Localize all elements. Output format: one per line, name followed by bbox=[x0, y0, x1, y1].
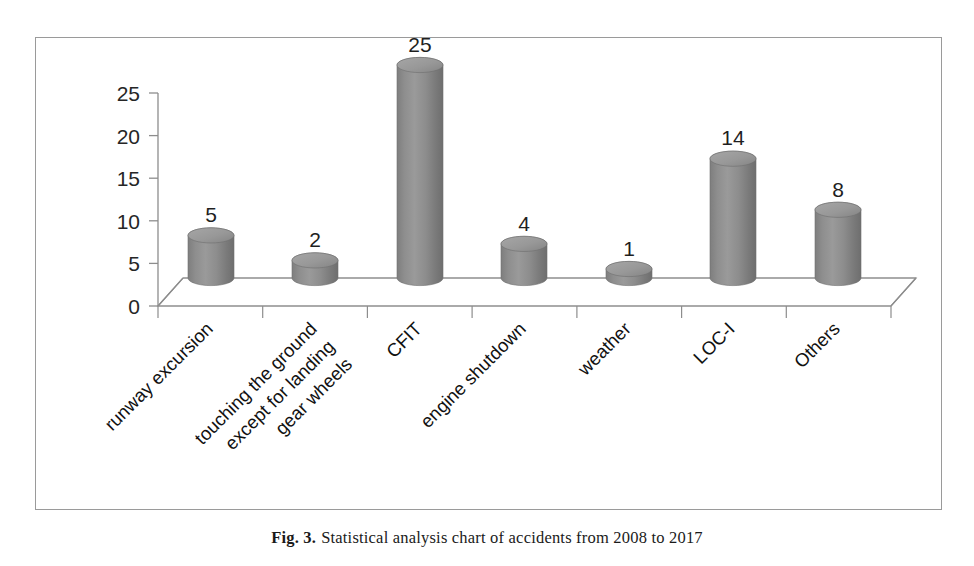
figure-number: Fig. 3. bbox=[271, 528, 316, 547]
bar-weather[interactable]: 1 bbox=[606, 237, 652, 286]
bar-value-label-cfit: 25 bbox=[408, 38, 431, 56]
y-tick-label-5: 5 bbox=[128, 252, 140, 275]
y-tick-label-25: 25 bbox=[117, 82, 140, 105]
x-category-label-touching-the-ground: touching the ground except for landing g… bbox=[190, 318, 356, 484]
x-category-label-cfit: CFIT bbox=[382, 318, 426, 362]
bar-value-label-touching-the-ground: 2 bbox=[309, 228, 321, 251]
figure-root: 25 20 15 10 5 0 bbox=[0, 0, 974, 566]
bar-value-label-engine-shutdown: 4 bbox=[518, 212, 530, 235]
y-tick-label-20: 20 bbox=[117, 125, 140, 148]
x-category-label-weather: weather bbox=[573, 318, 635, 380]
svg-text:runway excursion: runway excursion bbox=[100, 318, 217, 435]
svg-text:weather: weather bbox=[573, 318, 635, 380]
bar-cfit[interactable]: 25 bbox=[397, 38, 443, 286]
figure-caption-text: Statistical analysis chart of accidents … bbox=[321, 528, 703, 547]
y-tick-labels: 25 20 15 10 5 0 bbox=[117, 82, 140, 318]
svg-text:engine shutdown: engine shutdown bbox=[416, 318, 530, 432]
svg-text:Others: Others bbox=[790, 318, 844, 372]
figure-caption: Fig. 3.Statistical analysis chart of acc… bbox=[0, 528, 974, 548]
svg-text:LOC-I: LOC-I bbox=[689, 318, 739, 368]
bar-engine-shutdown[interactable]: 4 bbox=[501, 212, 547, 286]
x-category-label-engine-shutdown: engine shutdown bbox=[416, 318, 530, 432]
y-axis bbox=[149, 93, 158, 306]
bar-value-label-weather: 1 bbox=[623, 237, 635, 260]
y-tick-label-15: 15 bbox=[117, 167, 140, 190]
bar-touching-the-ground[interactable]: 2 bbox=[292, 228, 338, 286]
bar-others[interactable]: 8 bbox=[815, 178, 861, 286]
x-category-label-loc-i: LOC-I bbox=[689, 318, 739, 368]
bar-value-label-others: 8 bbox=[832, 178, 844, 201]
x-category-label-runway-excursion: runway excursion bbox=[100, 318, 217, 435]
bar-chart-svg: 25 20 15 10 5 0 bbox=[36, 38, 941, 509]
y-tick-label-0: 0 bbox=[128, 295, 140, 318]
bar-value-label-loc-i: 14 bbox=[721, 126, 745, 149]
x-category-labels: runway excursion touching the ground exc… bbox=[100, 318, 844, 484]
chart-plot-frame: 25 20 15 10 5 0 bbox=[35, 37, 942, 510]
bar-runway-excursion[interactable]: 5 bbox=[188, 203, 234, 286]
y-tick-label-10: 10 bbox=[117, 210, 140, 233]
x-category-label-others: Others bbox=[790, 318, 844, 372]
bar-loc-i[interactable]: 14 bbox=[710, 126, 756, 286]
x-axis-ticks bbox=[158, 306, 891, 318]
bar-value-label-runway-excursion: 5 bbox=[205, 203, 217, 226]
svg-text:CFIT: CFIT bbox=[382, 318, 426, 362]
